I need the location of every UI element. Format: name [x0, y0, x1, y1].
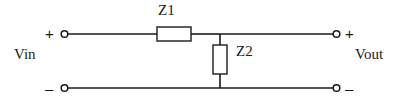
component-z1-body [157, 27, 191, 41]
component-z2-body [213, 45, 227, 74]
output-negative-sign: – [345, 81, 353, 96]
component-z2-label: Z2 [236, 44, 253, 59]
input-positive-sign: + [45, 26, 54, 41]
terminal-vin-positive[interactable] [61, 31, 68, 38]
output-positive-sign: + [345, 26, 354, 41]
input-port-label: Vin [14, 47, 36, 62]
terminal-vout-negative[interactable] [333, 85, 340, 92]
circuit-diagram: Vin Vout Z1 Z2 + – + – [0, 0, 407, 100]
component-z1-label: Z1 [158, 3, 175, 18]
terminal-vout-positive[interactable] [333, 31, 340, 38]
output-port-label: Vout [355, 47, 383, 62]
input-negative-sign: – [45, 81, 53, 96]
terminal-vin-negative[interactable] [61, 85, 68, 92]
